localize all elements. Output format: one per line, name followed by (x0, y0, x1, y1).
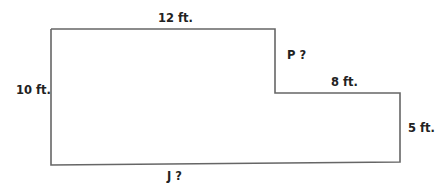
floor-plan-outline (0, 0, 442, 188)
label-bottom-side: J ? (167, 171, 182, 183)
label-inner-horizontal: 8 ft. (331, 77, 358, 89)
label-top-side: 12 ft. (158, 13, 193, 25)
label-left-side: 10 ft. (16, 85, 51, 97)
label-right-side: 5 ft. (408, 123, 435, 135)
label-inner-vertical: P ? (287, 50, 306, 62)
shape-outline (51, 29, 400, 165)
